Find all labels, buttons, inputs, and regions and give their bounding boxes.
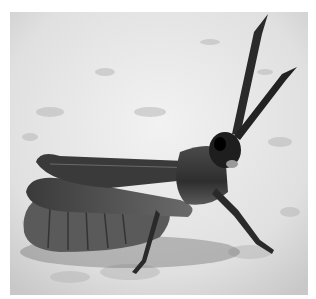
grasshopper-illustration [10,12,308,295]
eye [214,137,226,151]
grasshopper-photo [10,12,308,295]
mouthparts [226,160,238,168]
